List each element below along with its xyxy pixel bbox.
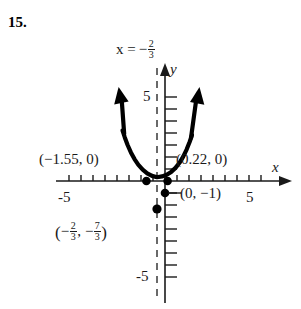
vertex-denominator-x: 3 [70,231,77,242]
vertex-numerator-x: 2 [70,221,77,231]
y-tick-label-minus-5: -5 [136,269,149,284]
axis-of-symmetry-numerator: 2 [148,39,155,49]
vertex-denominator-y: 3 [94,231,101,242]
vertex-fraction-y: 73 [94,221,101,242]
y-axis-arrowhead [160,63,170,76]
point-x-intercept-right [163,177,172,186]
vertex-close-paren: ) [101,223,107,242]
y-axis-ticks [165,97,177,277]
axis-of-symmetry-fraction: 23 [148,39,155,60]
x-axis-arrowhead [279,176,292,186]
y-tick-label-5: 5 [143,89,151,104]
axis-of-symmetry-label: x =−23 [116,40,155,61]
point-x-intercept-left [142,177,151,186]
vertex-comma: , [77,223,81,239]
x-axis-label: x [272,160,279,175]
graph-figure: 15. [0,0,301,309]
x-tick-label-5: 5 [246,190,254,205]
y-axis-label: y [170,62,177,77]
vertex-fraction-x: 23 [70,221,77,242]
point-vertex [152,204,161,213]
vertex-numerator-y: 7 [94,221,101,231]
vertex-minus-1: − [61,223,69,239]
x-tick-label-minus-5: -5 [58,190,71,205]
axis-of-symmetry-prefix: x = [116,41,136,57]
label-vertex: (−23,−73) [55,222,107,243]
axis-of-symmetry-denominator: 3 [148,49,155,60]
label-x-intercept-left: (−1.55, 0) [39,152,99,167]
label-x-intercept-right: (0.22, 0) [176,152,227,167]
label-y-intercept: (0, −1) [180,186,221,201]
vertex-minus-2: − [85,223,93,239]
axis-of-symmetry-minus: − [139,41,147,57]
